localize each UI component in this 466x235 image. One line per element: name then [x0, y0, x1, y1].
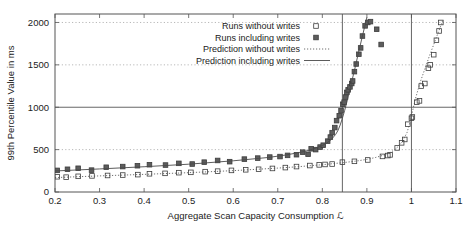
- data-point-filled-square: [306, 152, 311, 157]
- y-axis-title: 99th Percentile Value in ms: [5, 45, 16, 160]
- x-tick-label: 0.2: [48, 195, 61, 206]
- data-point-filled-square: [374, 27, 379, 32]
- x-axis-title: Aggregate Scan Capacity Consumption ℒ: [168, 210, 344, 221]
- y-tick-label: 500: [33, 144, 49, 155]
- data-point-open-square: [330, 162, 335, 167]
- y-tick-label: 1500: [28, 59, 49, 70]
- x-tick-label: 0.4: [138, 195, 151, 206]
- chart-container: 0.20.30.40.50.60.70.80.911.1050010001500…: [0, 0, 466, 235]
- x-tick-label: 0.5: [182, 195, 195, 206]
- data-point-open-square: [352, 159, 357, 164]
- data-point-filled-square: [368, 19, 373, 24]
- data-point-open-square: [365, 158, 370, 163]
- data-point-filled-square: [330, 130, 335, 135]
- data-point-filled-square: [227, 159, 232, 164]
- x-tick-label: 0.7: [271, 195, 284, 206]
- legend-label-0: Runs without writes: [222, 21, 301, 31]
- data-point-filled-square: [202, 160, 207, 165]
- data-point-filled-square: [242, 157, 247, 162]
- data-point-filled-square: [89, 168, 94, 173]
- x-tick-label: 1: [409, 195, 414, 206]
- data-point-open-square: [431, 52, 436, 57]
- legend-marker-open-square: [314, 24, 319, 29]
- data-point-filled-square: [334, 118, 339, 123]
- x-tick-label: 0.3: [93, 195, 106, 206]
- data-point-open-square: [426, 66, 431, 71]
- data-point-filled-square: [337, 113, 342, 118]
- y-tick-label: 2000: [28, 17, 49, 28]
- data-point-filled-square: [379, 42, 384, 47]
- y-tick-label: 0: [44, 186, 49, 197]
- x-tick-label: 0.6: [227, 195, 240, 206]
- legend-label-2: Prediction without writes: [203, 44, 301, 54]
- legend-label-1: Runs including writes: [215, 33, 301, 43]
- x-tick-label: 0.8: [316, 195, 329, 206]
- x-tick-label: 1.1: [449, 195, 462, 206]
- data-point-open-square: [55, 174, 60, 179]
- legend-marker-filled-square: [314, 35, 319, 40]
- legend-label-3: Prediction including writes: [196, 56, 301, 66]
- x-tick-label: 0.9: [360, 195, 373, 206]
- data-point-filled-square: [342, 100, 347, 105]
- data-point-open-square: [434, 38, 439, 43]
- y-tick-label: 1000: [28, 102, 49, 113]
- data-point-filled-square: [333, 125, 338, 130]
- data-point-open-square: [402, 137, 407, 142]
- percentile-vs-scan-capacity-chart: 0.20.30.40.50.60.70.80.911.1050010001500…: [0, 0, 466, 235]
- data-point-filled-square: [278, 154, 283, 159]
- data-point-filled-square: [343, 95, 348, 100]
- data-point-filled-square: [339, 108, 344, 113]
